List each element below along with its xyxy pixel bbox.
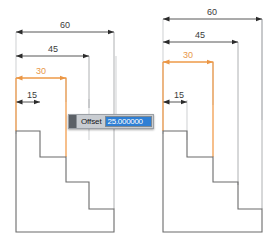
dimension-60[interactable]: 60 (16, 20, 114, 32)
dimension-45-label: 45 (48, 44, 58, 54)
dimension-60-label: 60 (207, 7, 217, 17)
dimension-45-label: 45 (195, 30, 205, 40)
sketch-canvas-root: 60 45 30 15 (0, 0, 277, 243)
offset-preview-outline[interactable] (163, 62, 213, 157)
dimension-15[interactable]: 15 (163, 90, 187, 102)
dimension-30[interactable]: 30 (163, 50, 213, 62)
staircase-profile[interactable] (16, 131, 114, 232)
offset-editor-tooltip[interactable]: Offset 25.000000 (68, 114, 154, 129)
right-view[interactable]: 60 45 30 15 (163, 7, 262, 232)
dimension-15-label: 15 (174, 90, 184, 100)
reference-lines (238, 19, 262, 209)
dimension-15-label: 15 (27, 90, 37, 100)
offset-value-input[interactable]: 25.000000 (105, 116, 152, 127)
dimension-45[interactable]: 45 (16, 44, 89, 56)
dimension-15[interactable]: 15 (16, 90, 40, 102)
dimension-60[interactable]: 60 (163, 7, 262, 19)
dimension-45[interactable]: 45 (163, 30, 238, 42)
dimension-30-label: 30 (36, 66, 46, 76)
dimension-30-label: 30 (183, 50, 193, 60)
dimension-30[interactable]: 30 (16, 66, 66, 78)
offset-preview-outline[interactable] (16, 78, 66, 157)
dimension-60-label: 60 (60, 20, 70, 30)
drag-grip-icon[interactable] (69, 115, 77, 128)
offset-label: Offset (77, 115, 105, 128)
